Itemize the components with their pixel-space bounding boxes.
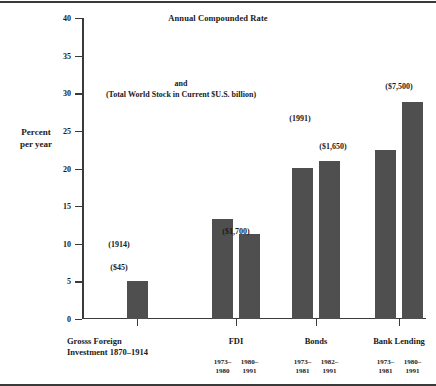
x-axis-period-label-line-1: 1973– bbox=[377, 358, 395, 367]
x-axis-period-label: 1973–1981 bbox=[377, 358, 395, 376]
y-axis-title-line-2: per year bbox=[6, 138, 66, 150]
y-tick-label: 30 bbox=[47, 89, 71, 98]
figure-chart-annual-compounded-rate: Annual Compounded Rate and (Total World … bbox=[0, 0, 436, 386]
bar-annotation-label: ($1,650) bbox=[319, 142, 346, 151]
y-tick-mark bbox=[75, 56, 82, 57]
x-axis-period-label-line-2: 1991 bbox=[321, 367, 339, 376]
plot-area: 0510152025303540 bbox=[82, 18, 426, 319]
y-tick-mark bbox=[75, 206, 82, 207]
x-axis-period-label-line-1: 1982– bbox=[321, 358, 339, 367]
x-axis-period-label-line-2: 1981 bbox=[377, 367, 395, 376]
x-axis-group-name-line-1: Grosss Foreign bbox=[67, 336, 187, 347]
bar bbox=[127, 281, 148, 319]
x-axis-period-label-line-1: 1980– bbox=[404, 358, 422, 367]
y-tick-mark bbox=[75, 131, 82, 132]
bar-annotation-label: (1914) bbox=[108, 240, 129, 249]
y-tick-label: 40 bbox=[47, 14, 71, 23]
x-axis-period-label-line-1: 1973– bbox=[214, 358, 232, 367]
y-tick-mark bbox=[75, 93, 82, 94]
x-tick-mark bbox=[316, 319, 317, 326]
x-axis-group-name: Bank Lending bbox=[373, 336, 425, 347]
x-axis-period-label-line-2: 1981 bbox=[294, 367, 312, 376]
x-axis-group-name: Bonds bbox=[305, 336, 328, 347]
x-tick-mark bbox=[399, 319, 400, 326]
y-tick-mark bbox=[75, 319, 82, 320]
bar bbox=[292, 168, 313, 319]
bar bbox=[402, 102, 423, 319]
x-tick-mark bbox=[236, 319, 237, 326]
y-tick-label: 5 bbox=[47, 277, 71, 286]
figure-top-rule bbox=[0, 1, 436, 3]
y-tick-mark bbox=[75, 18, 82, 19]
y-tick-label: 35 bbox=[47, 51, 71, 60]
bar-annotation-label: ($1,700) bbox=[222, 227, 249, 236]
bar bbox=[239, 234, 260, 319]
x-axis-group-name: FDI bbox=[229, 336, 244, 347]
y-tick-label: 20 bbox=[47, 164, 71, 173]
x-axis-group-name: Grosss ForeignInvestment 1870–1914 bbox=[67, 336, 187, 358]
bar-annotation-label: ($7,500) bbox=[385, 82, 412, 91]
x-axis-period-label: 1973–1981 bbox=[294, 358, 312, 376]
y-tick-label: 15 bbox=[47, 202, 71, 211]
y-axis-line bbox=[82, 18, 84, 319]
x-axis-period-label-line-2: 1991 bbox=[404, 367, 422, 376]
bar-annotation-label: (1991) bbox=[289, 114, 310, 123]
y-tick-mark bbox=[75, 281, 82, 282]
x-axis-period-label-line-2: 1980 bbox=[214, 367, 232, 376]
x-axis-period-label: 1982–1991 bbox=[321, 358, 339, 376]
x-axis-period-label: 1980–1991 bbox=[404, 358, 422, 376]
x-axis-group-name-line-2: Investment 1870–1914 bbox=[67, 347, 187, 358]
bar bbox=[319, 161, 340, 319]
y-tick-label: 25 bbox=[47, 126, 71, 135]
x-axis-period-label-line-1: 1980– bbox=[241, 358, 259, 367]
x-axis-period-label: 1973–1980 bbox=[214, 358, 232, 376]
x-axis-period-label: 1980–1991 bbox=[241, 358, 259, 376]
x-axis-period-label-line-1: 1973– bbox=[294, 358, 312, 367]
y-tick-label: 0 bbox=[47, 315, 71, 324]
y-tick-mark bbox=[75, 244, 82, 245]
x-tick-mark bbox=[137, 319, 138, 326]
bar-annotation-label: ($45) bbox=[110, 263, 127, 272]
x-axis-period-label-line-2: 1991 bbox=[241, 367, 259, 376]
y-tick-label: 10 bbox=[47, 239, 71, 248]
y-tick-mark bbox=[75, 169, 82, 170]
bar bbox=[375, 150, 396, 319]
